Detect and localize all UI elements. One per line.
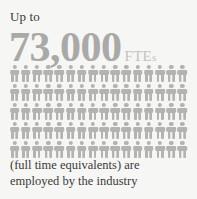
person-icon [43,83,54,101]
caption-line-2: employed by the industry [10,173,190,189]
pictogram-row [9,102,191,120]
person-icon [9,140,20,158]
person-icon [76,140,87,158]
person-icon [177,83,188,101]
person-icon [65,102,76,120]
person-icon [65,121,76,139]
person-icon [166,102,177,120]
person-icon [110,83,121,101]
person-icon [99,64,110,82]
person-icon [87,121,98,139]
person-icon [76,121,87,139]
person-icon [143,121,154,139]
person-icon [9,64,20,82]
person-icon [154,102,165,120]
person-icon [110,140,121,158]
pictogram-row [9,121,191,139]
person-icon [43,64,54,82]
person-icon [99,83,110,101]
caption-text: (full time equivalents) are employed by … [10,157,190,189]
person-icon [166,140,177,158]
person-icon [87,140,98,158]
person-icon [87,64,98,82]
person-icon [31,83,42,101]
person-icon [54,83,65,101]
person-icon [54,121,65,139]
person-icon [54,102,65,120]
person-icon [9,121,20,139]
headline-unit-main: FTE [125,48,153,64]
person-icon [121,121,132,139]
person-icon [132,140,143,158]
person-icon [9,102,20,120]
person-icon [99,140,110,158]
person-icon [177,140,188,158]
person-icon [121,140,132,158]
pictogram-row [9,140,191,158]
person-icon [143,64,154,82]
person-icon [177,64,188,82]
person-icon [177,102,188,120]
person-icon [143,140,154,158]
person-icon [154,64,165,82]
pictogram-grid [9,64,191,158]
person-icon [20,102,31,120]
headline-unit-suffix: s [152,51,157,63]
person-icon [166,83,177,101]
person-icon [54,64,65,82]
person-icon [65,83,76,101]
person-icon [132,83,143,101]
headline-figure: 73,000 FTEs [9,26,157,68]
person-icon [9,83,20,101]
person-icon [121,83,132,101]
person-icon [177,121,188,139]
person-icon [20,64,31,82]
person-icon [121,102,132,120]
person-icon [110,102,121,120]
person-icon [132,64,143,82]
pictogram-row [9,64,191,82]
person-icon [143,83,154,101]
person-icon [20,83,31,101]
person-icon [143,102,154,120]
person-icon [20,121,31,139]
person-icon [31,140,42,158]
person-icon [132,102,143,120]
pictogram-row [9,83,191,101]
person-icon [54,140,65,158]
person-icon [65,64,76,82]
person-icon [99,121,110,139]
person-icon [132,121,143,139]
person-icon [76,102,87,120]
person-icon [154,121,165,139]
person-icon [31,121,42,139]
person-icon [121,64,132,82]
person-icon [76,64,87,82]
person-icon [76,83,87,101]
caption-line-1: (full time equivalents) are [10,157,190,173]
person-icon [99,102,110,120]
headline-unit: FTEs [125,49,157,65]
fte-infographic: Up to 73,000 FTEs (full time equivalents… [0,0,197,199]
person-icon [31,102,42,120]
person-icon [43,102,54,120]
person-icon [43,121,54,139]
person-icon [110,64,121,82]
person-icon [31,64,42,82]
person-icon [87,83,98,101]
headline-value: 73,000 [9,26,122,68]
person-icon [154,140,165,158]
person-icon [20,140,31,158]
person-icon [65,140,76,158]
person-icon [43,140,54,158]
person-icon [110,121,121,139]
person-icon [166,121,177,139]
kicker-text: Up to [10,9,40,24]
person-icon [87,102,98,120]
person-icon [166,64,177,82]
person-icon [154,83,165,101]
